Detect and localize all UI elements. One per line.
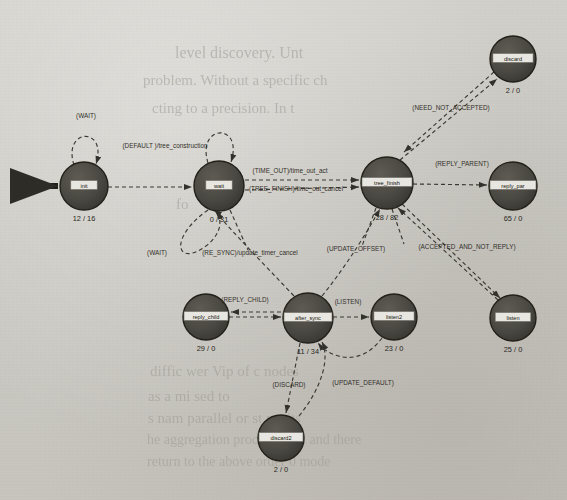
state-node-reply_par[interactable]: reply_par65 / 0 xyxy=(489,162,537,223)
edge-label-discard2-to-after: (UPDATE_DEFAULT) xyxy=(332,379,394,387)
edge-tree-finish-to-reply-par[interactable] xyxy=(413,184,487,185)
node-label-text: listen xyxy=(506,315,519,321)
edge-label-reply-child-to-after: (REPLY_CHILD) xyxy=(221,296,268,304)
node-counter-listen2: 23 / 0 xyxy=(385,344,404,353)
edge-listen2-to-after-sync[interactable] xyxy=(318,338,382,357)
node-counter-tree_finish: 28 / 82 xyxy=(376,213,399,222)
edge-label-after-sync-to-discard2: (DISCARD) xyxy=(272,381,305,389)
node-counter-after_sync: 11 / 34 xyxy=(297,347,319,356)
state-node-listen[interactable]: listen25 / 0 xyxy=(490,295,536,354)
node-label-text: init xyxy=(80,183,88,189)
node-counter-discard: 2 / 0 xyxy=(506,86,520,95)
edge-tree-finish-stub-a[interactable] xyxy=(362,208,376,246)
state-machine-diagram: init12 / 16wait0 / 31tree_finish28 / 82d… xyxy=(0,0,567,500)
edge-label-wait-to-tree-finish-1: (TIME_OUT)/time_out_act xyxy=(253,167,328,175)
node-label-text: reply_par xyxy=(501,183,524,189)
state-node-init[interactable]: init12 / 16 xyxy=(60,162,108,223)
edge-label-init-to-wait: (DEFAULT )/tree_construction xyxy=(122,142,207,150)
state-node-discard2[interactable]: discard22 / 0 xyxy=(258,415,304,474)
node-counter-listen: 25 / 0 xyxy=(504,345,523,354)
node-label-text: wait xyxy=(213,183,224,189)
state-node-after_sync[interactable]: after_sync11 / 34 xyxy=(283,293,333,356)
edge-label-tree-finish-to-listen: (ACCEPTED_AND_NOT_REPLY) xyxy=(418,243,515,251)
edge-discard-to-tree-finish[interactable] xyxy=(404,72,494,152)
edge-init-self[interactable] xyxy=(72,136,98,165)
edge-label-after-sync-to-wait: (RE_SYNC)/update_timer_cancel xyxy=(202,249,298,257)
edge-label-after-sync-to-listen2: (LISTEN) xyxy=(335,298,362,306)
edge-label-wait-self: (WAIT) xyxy=(147,249,167,257)
edge-label-after-sync-to-tf: (UPDATE_OFFSET) xyxy=(327,245,385,253)
edge-tree-finish-to-discard[interactable] xyxy=(400,79,497,160)
node-label-text: after_sync xyxy=(295,315,321,321)
node-counter-init: 12 / 16 xyxy=(73,214,96,223)
edge-label-wait-to-tree-finish-2: (TREE_FINISH)/time_out_cancel xyxy=(249,185,343,193)
state-node-discard[interactable]: discard2 / 0 xyxy=(490,36,536,95)
node-counter-reply_child: 29 / 0 xyxy=(197,344,216,353)
node-label-text: discard xyxy=(504,56,522,62)
edge-label-tree-finish-to-reply: (REPLY_PARENT) xyxy=(435,160,489,168)
state-node-listen2[interactable]: listen223 / 0 xyxy=(371,294,417,353)
edge-tree-finish-to-listen[interactable] xyxy=(402,204,500,298)
diagram-canvas: init12 / 16wait0 / 31tree_finish28 / 82d… xyxy=(0,0,567,500)
edge-listen-to-tree-finish[interactable] xyxy=(398,208,498,300)
edge-labels-layer: (WAIT)(DEFAULT )/tree_construction(WAIT)… xyxy=(76,104,516,389)
edge-wait-stub[interactable] xyxy=(230,210,248,250)
edge-label-tree-finish-to-discard: (NEED_NOT_ACCEPTED) xyxy=(412,104,489,112)
node-label-text: tree_finish xyxy=(374,180,400,186)
edge-label-init-self: (WAIT) xyxy=(76,112,96,120)
nodes-layer: init12 / 16wait0 / 31tree_finish28 / 82d… xyxy=(60,36,537,474)
node-counter-wait: 0 / 31 xyxy=(210,215,229,224)
node-counter-discard2: 2 / 0 xyxy=(274,465,288,474)
edge-wait-self-top[interactable] xyxy=(206,133,233,163)
node-counter-reply_par: 65 / 0 xyxy=(504,214,523,223)
node-label-text: listen2 xyxy=(386,314,402,320)
state-node-tree_finish[interactable]: tree_finish28 / 82 xyxy=(361,157,413,222)
node-label-text: reply_child xyxy=(193,314,220,320)
node-label-text: discard2 xyxy=(270,435,291,441)
